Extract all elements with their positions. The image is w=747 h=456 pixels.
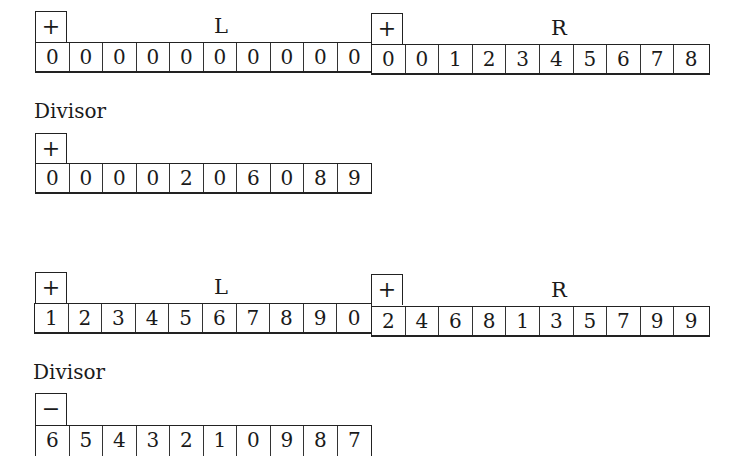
divisor-caption: Divisor	[34, 99, 106, 123]
digit-cell: 0	[237, 43, 271, 71]
digit-cell: 3	[137, 426, 171, 456]
r-sign-box: +	[371, 13, 403, 44]
r-sign-box: +	[371, 274, 403, 305]
digit-cell: 1	[204, 426, 238, 456]
digit-cell: 5	[169, 304, 203, 332]
l-register: 0000000000	[35, 42, 372, 73]
digit-cell: 0	[304, 43, 338, 71]
l-sign-box: +	[35, 11, 67, 42]
digit-cell: 0	[237, 426, 271, 456]
digit-cell: 1	[506, 307, 540, 335]
digit-cell: 3	[540, 307, 574, 335]
digit-cell: 0	[204, 43, 238, 71]
digit-cell: 7	[237, 304, 271, 332]
digit-cell: 0	[271, 43, 305, 71]
digit-cell: 6	[607, 45, 641, 73]
divisor-sign-box: +	[35, 133, 67, 163]
digit-cell: 0	[204, 164, 238, 192]
l-sign-box: +	[35, 272, 67, 303]
divisor-register: 0000206089	[35, 163, 372, 194]
r-register: 2468135799	[371, 306, 710, 337]
digit-cell: 4	[136, 304, 170, 332]
digit-cell: 0	[337, 304, 371, 332]
l-register: 1234567890	[34, 303, 372, 334]
digit-cell: 9	[674, 307, 708, 335]
digit-cell: 2	[372, 307, 406, 335]
digit-cell: 1	[35, 304, 69, 332]
l-register-label: L	[214, 14, 228, 38]
digit-cell: 8	[473, 307, 507, 335]
digit-cell: 0	[372, 45, 406, 73]
digit-cell: 0	[137, 164, 171, 192]
digit-cell: 9	[338, 164, 372, 192]
digit-cell: 5	[574, 45, 608, 73]
digit-cell: 0	[271, 164, 305, 192]
r-register-label: R	[551, 16, 567, 40]
r-register-label: R	[551, 278, 567, 302]
digit-cell: 2	[170, 164, 204, 192]
digit-cell: 0	[338, 43, 372, 71]
digit-cell: 1	[439, 45, 473, 73]
digit-cell: 8	[304, 426, 338, 456]
digit-cell: 8	[674, 45, 708, 73]
digit-cell: 4	[406, 307, 440, 335]
digit-cell: 6	[203, 304, 237, 332]
digit-cell: 3	[102, 304, 136, 332]
digit-cell: 0	[137, 43, 171, 71]
digit-cell: 2	[170, 426, 204, 456]
digit-cell: 0	[103, 43, 137, 71]
digit-cell: 5	[574, 307, 608, 335]
digit-cell: 9	[641, 307, 675, 335]
divisor-sign-box: −	[35, 393, 67, 425]
digit-cell: 3	[506, 45, 540, 73]
r-register: 0012345678	[371, 44, 710, 75]
digit-cell: 2	[69, 304, 103, 332]
digit-cell: 9	[304, 304, 338, 332]
digit-cell: 0	[70, 164, 104, 192]
digit-cell: 0	[406, 45, 440, 73]
digit-cell: 0	[70, 43, 104, 71]
l-register-label: L	[214, 275, 228, 299]
digit-cell: 8	[270, 304, 304, 332]
digit-cell: 2	[473, 45, 507, 73]
digit-cell: 5	[70, 426, 104, 456]
digit-cell: 7	[607, 307, 641, 335]
digit-cell: 0	[103, 164, 137, 192]
digit-cell: 4	[103, 426, 137, 456]
divisor-register: 6543210987	[35, 425, 372, 456]
digit-cell: 9	[271, 426, 305, 456]
digit-cell: 7	[338, 426, 372, 456]
digit-cell: 7	[641, 45, 675, 73]
digit-cell: 0	[170, 43, 204, 71]
divisor-caption: Divisor	[33, 360, 105, 384]
digit-cell: 8	[304, 164, 338, 192]
digit-cell: 6	[36, 426, 70, 456]
digit-cell: 6	[237, 164, 271, 192]
digit-cell: 0	[36, 164, 70, 192]
digit-cell: 6	[439, 307, 473, 335]
digit-cell: 4	[540, 45, 574, 73]
digit-cell: 0	[36, 43, 70, 71]
